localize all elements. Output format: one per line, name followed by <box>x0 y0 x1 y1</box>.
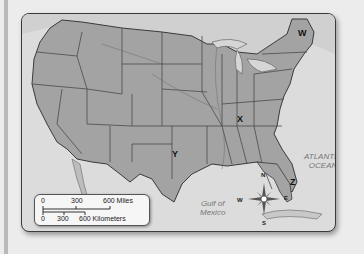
gulf-line2: Mexico <box>200 208 225 217</box>
label-w: W <box>298 28 307 38</box>
scale-km-0: 0 <box>41 215 45 222</box>
gulf-of-mexico-label: Gulf of Mexico <box>200 199 225 217</box>
atlantic-ocean-label: ATLANTIC OCEAN <box>304 152 336 170</box>
atlantic-line1: ATLANTIC <box>304 152 336 161</box>
compass-n: N <box>261 172 265 178</box>
scale-bar: 0 300 600 Miles 0 300 600 Kilometers <box>34 194 150 226</box>
atlantic-line2: OCEAN <box>304 161 336 170</box>
us-map: W X Y Z ATLANTIC OCEAN Gulf of Mexico N … <box>21 13 336 232</box>
label-z: Z <box>290 177 296 187</box>
label-y: Y <box>172 149 178 159</box>
compass-star-icon <box>244 179 284 219</box>
compass-s: S <box>262 220 266 226</box>
page-edge-bar <box>4 0 8 254</box>
compass-rose: N S E W <box>244 179 284 219</box>
label-x: X <box>237 114 243 124</box>
compass-e: E <box>284 195 288 201</box>
scale-km-300: 300 <box>57 215 69 222</box>
compass-w: W <box>237 197 243 203</box>
scale-km-600: 600 Kilometers <box>79 215 126 222</box>
gulf-line1: Gulf of <box>200 199 225 208</box>
